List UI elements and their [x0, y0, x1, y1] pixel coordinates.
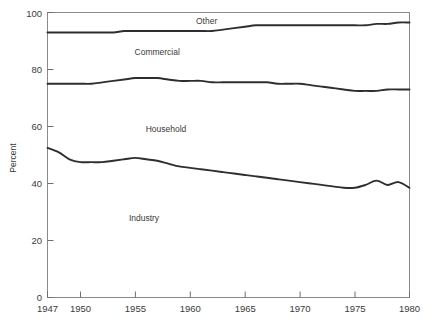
x-tick-label-1947: 1947 [37, 303, 58, 314]
y-tick-label-80: 80 [31, 64, 42, 75]
x-tick-label-1950: 1950 [70, 303, 91, 314]
y-tick-label-0: 0 [37, 292, 42, 303]
y-axis-tick-labels: 0 20 40 60 80 100 [26, 8, 42, 303]
x-tick-label-1975: 1975 [344, 303, 365, 314]
x-tick-label-1980: 1980 [399, 303, 420, 314]
y-tick-label-100: 100 [26, 8, 42, 19]
series-label-other: Other [196, 16, 217, 26]
boundary-line [48, 148, 410, 188]
band-boundary-curves [48, 22, 410, 188]
y-tick-label-60: 60 [31, 121, 42, 132]
y-axis-title: Percent [8, 143, 18, 173]
y-tick-label-40: 40 [31, 178, 42, 189]
boundary-line [48, 78, 410, 91]
series-label-household: Household [146, 124, 187, 134]
x-tick-label-1960: 1960 [180, 303, 201, 314]
x-tick-label-1965: 1965 [235, 303, 256, 314]
x-axis-ticks [48, 292, 410, 298]
x-axis-tick-labels: 1947 1950 1955 1960 1965 1970 1975 1980 [37, 303, 420, 314]
y-tick-label-20: 20 [31, 235, 42, 246]
x-tick-label-1955: 1955 [125, 303, 146, 314]
y-axis-ticks [48, 13, 54, 298]
series-inline-labels: Other Commercial Household Industry [129, 16, 218, 223]
series-label-commercial: Commercial [135, 47, 180, 57]
series-label-industry: Industry [129, 213, 160, 223]
figure-container: 0 20 40 60 80 100 Percent 1947 1950 1955… [0, 0, 432, 330]
x-tick-label-1970: 1970 [290, 303, 311, 314]
stacked-area-chart: 0 20 40 60 80 100 Percent 1947 1950 1955… [0, 0, 432, 330]
boundary-line [48, 22, 410, 32]
plot-frame [48, 13, 410, 298]
